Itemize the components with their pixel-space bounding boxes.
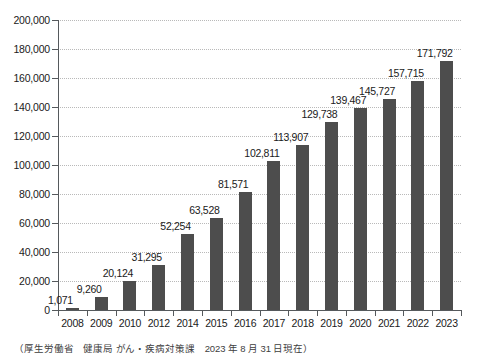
bar-value-label: 171,792 bbox=[417, 47, 453, 59]
x-axis-tick bbox=[403, 311, 404, 316]
bar bbox=[210, 218, 223, 310]
bar bbox=[411, 81, 424, 310]
x-axis-tick-label: 2016 bbox=[234, 317, 256, 329]
x-axis-tick-label: 2010 bbox=[119, 317, 141, 329]
bar-value-label: 157,715 bbox=[388, 67, 424, 79]
bar bbox=[354, 108, 367, 310]
x-axis-tick bbox=[317, 311, 318, 316]
bar bbox=[267, 161, 280, 310]
x-axis-tick bbox=[116, 311, 117, 316]
bar-value-label: 81,571 bbox=[218, 178, 248, 190]
bar bbox=[383, 99, 396, 310]
bar-value-label: 52,254 bbox=[160, 220, 190, 232]
x-axis-tick-label: 2022 bbox=[407, 317, 429, 329]
y-axis-tick-label: 140,000 bbox=[0, 101, 50, 113]
bar-value-label: 20,124 bbox=[103, 267, 133, 279]
y-axis-tick-label: 180,000 bbox=[0, 43, 50, 55]
bar bbox=[296, 145, 309, 310]
x-axis-tick-label: 2008 bbox=[61, 317, 83, 329]
y-axis-tick-label: 100,000 bbox=[0, 159, 50, 171]
y-axis-tick-label: 0 bbox=[0, 304, 50, 316]
bar-value-label: 1,071 bbox=[48, 294, 73, 306]
x-axis-tick-label: 2017 bbox=[263, 317, 285, 329]
x-axis-tick bbox=[260, 311, 261, 316]
x-axis-tick bbox=[288, 311, 289, 316]
x-axis-tick-label: 2015 bbox=[205, 317, 227, 329]
y-axis-tick-label: 20,000 bbox=[0, 275, 50, 287]
x-axis-tick bbox=[375, 311, 376, 316]
x-axis-tick-label: 2012 bbox=[148, 317, 170, 329]
bar bbox=[181, 234, 194, 310]
x-axis-tick-label: 2009 bbox=[90, 317, 112, 329]
x-axis-tick bbox=[58, 311, 59, 316]
y-axis-tick-label: 40,000 bbox=[0, 246, 50, 258]
bar-value-label: 31,295 bbox=[132, 251, 162, 263]
x-axis-tick bbox=[346, 311, 347, 316]
x-axis-tick bbox=[87, 311, 88, 316]
x-axis-tick-label: 2018 bbox=[292, 317, 314, 329]
x-axis-tick-label: 2019 bbox=[320, 317, 342, 329]
bar bbox=[66, 308, 79, 310]
y-axis-tick-label: 160,000 bbox=[0, 72, 50, 84]
bar-value-label: 129,738 bbox=[302, 108, 338, 120]
y-axis-tick-label: 200,000 bbox=[0, 14, 50, 26]
x-axis-tick-label: 2023 bbox=[436, 317, 458, 329]
bar bbox=[95, 297, 108, 310]
x-axis-tick bbox=[202, 311, 203, 316]
y-axis-tick-label: 120,000 bbox=[0, 130, 50, 142]
bar-value-label: 145,727 bbox=[359, 85, 395, 97]
x-axis-tick bbox=[144, 311, 145, 316]
bar-value-label: 9,260 bbox=[77, 283, 102, 295]
x-axis-tick bbox=[432, 311, 433, 316]
bar bbox=[123, 281, 136, 310]
source-caption: （厚生労働省 健康局 がん・疾病対策課 2023 年 8 月 31 日現在） bbox=[14, 341, 313, 355]
bar-value-label: 102,811 bbox=[244, 147, 279, 159]
bar bbox=[440, 61, 453, 310]
bar bbox=[325, 122, 338, 310]
bar-value-label: 63,528 bbox=[189, 204, 219, 216]
x-axis-tick bbox=[231, 311, 232, 316]
bar bbox=[152, 265, 165, 310]
x-axis-tick-label: 2020 bbox=[349, 317, 371, 329]
bar bbox=[239, 192, 252, 310]
x-axis-tick bbox=[173, 311, 174, 316]
y-axis-tick-label: 60,000 bbox=[0, 217, 50, 229]
x-axis-tick bbox=[461, 311, 462, 316]
y-axis-tick-label: 80,000 bbox=[0, 188, 50, 200]
x-axis-tick-label: 2021 bbox=[378, 317, 400, 329]
y-axis-tick-labels: 020,00040,00060,00080,000100,000120,0001… bbox=[0, 0, 50, 353]
bar-value-label: 113,907 bbox=[273, 131, 308, 143]
x-axis-tick-label: 2014 bbox=[176, 317, 198, 329]
